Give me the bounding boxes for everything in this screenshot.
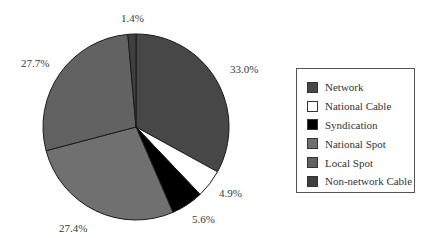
legend-item-syndication: Syndication bbox=[307, 116, 414, 135]
legend-label: National Cable bbox=[325, 100, 391, 112]
legend-swatch-network bbox=[307, 82, 318, 93]
legend: Network National Cable Syndication Natio… bbox=[296, 68, 415, 193]
legend-label: Non-network Cable bbox=[325, 175, 412, 187]
legend-label: Syndication bbox=[325, 119, 378, 131]
legend-swatch-local-spot bbox=[307, 157, 318, 168]
label-syndication: 5.6% bbox=[192, 214, 215, 225]
legend-item-network: Network bbox=[307, 78, 414, 97]
legend-swatch-national-spot bbox=[307, 138, 318, 149]
legend-swatch-national-cable bbox=[307, 101, 318, 112]
label-non-network-cable: 1.4% bbox=[121, 13, 144, 24]
legend-item-non-network-cable: Non-network Cable bbox=[307, 172, 414, 191]
label-network: 33.0% bbox=[230, 64, 258, 75]
label-local-spot: 27.7% bbox=[21, 58, 49, 69]
legend-item-local-spot: Local Spot bbox=[307, 153, 414, 172]
legend-label: Local Spot bbox=[325, 157, 373, 169]
label-national-spot: 27.4% bbox=[59, 223, 87, 234]
legend-label: Network bbox=[325, 81, 364, 93]
legend-swatch-non-network-cable bbox=[307, 176, 318, 187]
pie-chart: 33.0% 4.9% 5.6% 27.4% 27.7% 1.4% Network… bbox=[0, 0, 437, 238]
label-national-cable: 4.9% bbox=[219, 188, 242, 199]
legend-item-national-spot: National Spot bbox=[307, 134, 414, 153]
legend-item-national-cable: National Cable bbox=[307, 97, 414, 116]
legend-swatch-syndication bbox=[307, 119, 318, 130]
legend-label: National Spot bbox=[325, 138, 386, 150]
